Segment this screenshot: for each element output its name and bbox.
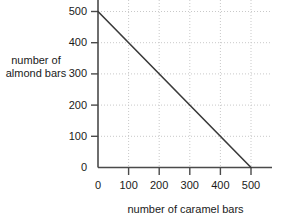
x-tick-label-500: 500 bbox=[234, 180, 268, 191]
x-tick-label-200: 200 bbox=[142, 180, 176, 191]
x-tick-label-100: 100 bbox=[112, 180, 146, 191]
y-axis-title-line-1: number of bbox=[2, 54, 70, 67]
vertical-gridlines bbox=[129, 0, 251, 168]
y-tick-label-500: 500 bbox=[53, 6, 87, 17]
y-tick-label-100: 100 bbox=[53, 131, 87, 142]
x-axis-ticks bbox=[129, 168, 251, 176]
y-axis-title-line-2: almond bars bbox=[2, 67, 70, 80]
horizontal-gridlines bbox=[98, 12, 272, 137]
x-tick-label-400: 400 bbox=[203, 180, 237, 191]
y-axis-ticks bbox=[91, 12, 98, 137]
data-line-budget bbox=[98, 12, 251, 168]
x-tick-label-300: 300 bbox=[173, 180, 207, 191]
chart-container: 500 400 300 200 100 0 0 100 200 300 400 … bbox=[0, 0, 281, 221]
y-tick-label-200: 200 bbox=[53, 100, 87, 111]
x-axis-title: number of caramel bars bbox=[98, 203, 273, 215]
y-tick-label-0: 0 bbox=[53, 162, 87, 173]
x-tick-label-0: 0 bbox=[81, 180, 115, 191]
y-axis-title: number of almond bars bbox=[2, 54, 70, 79]
y-tick-label-400: 400 bbox=[53, 37, 87, 48]
